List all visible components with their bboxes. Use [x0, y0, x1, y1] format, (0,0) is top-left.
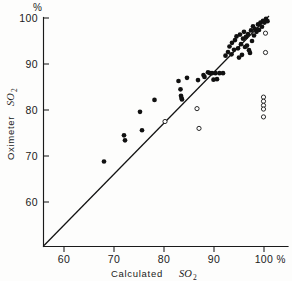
- data-point-filled: [240, 52, 245, 57]
- data-point-filled: [260, 24, 265, 29]
- x-axis-title-subscript: 2: [193, 273, 197, 281]
- data-point-filled: [239, 42, 244, 47]
- data-point-open: [261, 115, 265, 119]
- data-point-filled: [178, 87, 183, 92]
- data-point-filled: [138, 109, 143, 114]
- y-axis-title: Oximeter SO 2: [5, 88, 19, 160]
- data-point-filled: [213, 71, 218, 76]
- y-tick-label-100: 100: [19, 12, 38, 24]
- data-point-filled: [248, 51, 253, 56]
- data-point-open: [263, 31, 267, 35]
- data-point-filled: [202, 75, 207, 80]
- data-point-filled: [123, 138, 128, 143]
- data-point-filled: [152, 98, 157, 103]
- data-point-filled: [265, 19, 270, 24]
- data-point-open: [163, 119, 167, 123]
- data-point-open: [261, 95, 265, 99]
- data-point-filled: [250, 39, 255, 44]
- x-tick-label-100: 100: [255, 253, 274, 265]
- x-tick-label-70: 70: [108, 253, 120, 265]
- y-tick-label-80: 80: [26, 104, 38, 116]
- x-axis-title-main: Calculated: [111, 268, 163, 279]
- y-tick-label-90: 90: [26, 58, 38, 70]
- x-axis-title: Calculated SO 2: [111, 268, 197, 281]
- data-point-filled: [245, 43, 250, 48]
- data-point-open: [197, 126, 201, 130]
- data-point-open: [195, 107, 199, 111]
- plot-canvas: % 100 90 80 70 60 60 70 80 90: [0, 0, 292, 281]
- data-marks-layer: [102, 17, 270, 164]
- y-axis-title-subscript: 2: [10, 88, 19, 92]
- data-point-open: [263, 50, 267, 54]
- data-point-filled: [196, 78, 201, 83]
- data-point-filled: [232, 47, 237, 52]
- x-tick-label-90: 90: [208, 253, 220, 265]
- y-axis-ticks: [44, 18, 50, 202]
- data-point-filled: [249, 28, 254, 33]
- data-point-open: [261, 107, 265, 111]
- data-point-filled: [102, 159, 107, 164]
- data-point-filled: [229, 52, 234, 57]
- data-point-filled: [176, 79, 181, 84]
- data-point-filled: [215, 77, 220, 82]
- x-axis-unit-label: %: [277, 254, 286, 265]
- y-tick-label-70: 70: [26, 150, 38, 162]
- y-axis-title-symbol: SO: [5, 93, 16, 106]
- scatter-plot-figure: % 100 90 80 70 60 60 70 80 90: [0, 0, 292, 281]
- y-axis-title-main: Oximeter: [5, 116, 16, 160]
- data-point-filled: [122, 133, 127, 138]
- data-point-filled: [236, 46, 241, 51]
- data-point-filled: [140, 128, 145, 133]
- data-point-filled: [180, 97, 185, 102]
- x-tick-label-80: 80: [158, 253, 170, 265]
- data-point-filled: [185, 75, 190, 80]
- data-point-filled: [238, 32, 243, 37]
- data-point-filled: [221, 71, 226, 76]
- y-tick-label-60: 60: [26, 196, 38, 208]
- data-point-filled: [242, 29, 247, 34]
- data-point-filled: [246, 32, 251, 37]
- data-point-open: [261, 99, 265, 103]
- x-tick-label-60: 60: [58, 253, 70, 265]
- x-axis-title-symbol: SO: [179, 268, 192, 279]
- x-axis-ticks: [64, 247, 264, 253]
